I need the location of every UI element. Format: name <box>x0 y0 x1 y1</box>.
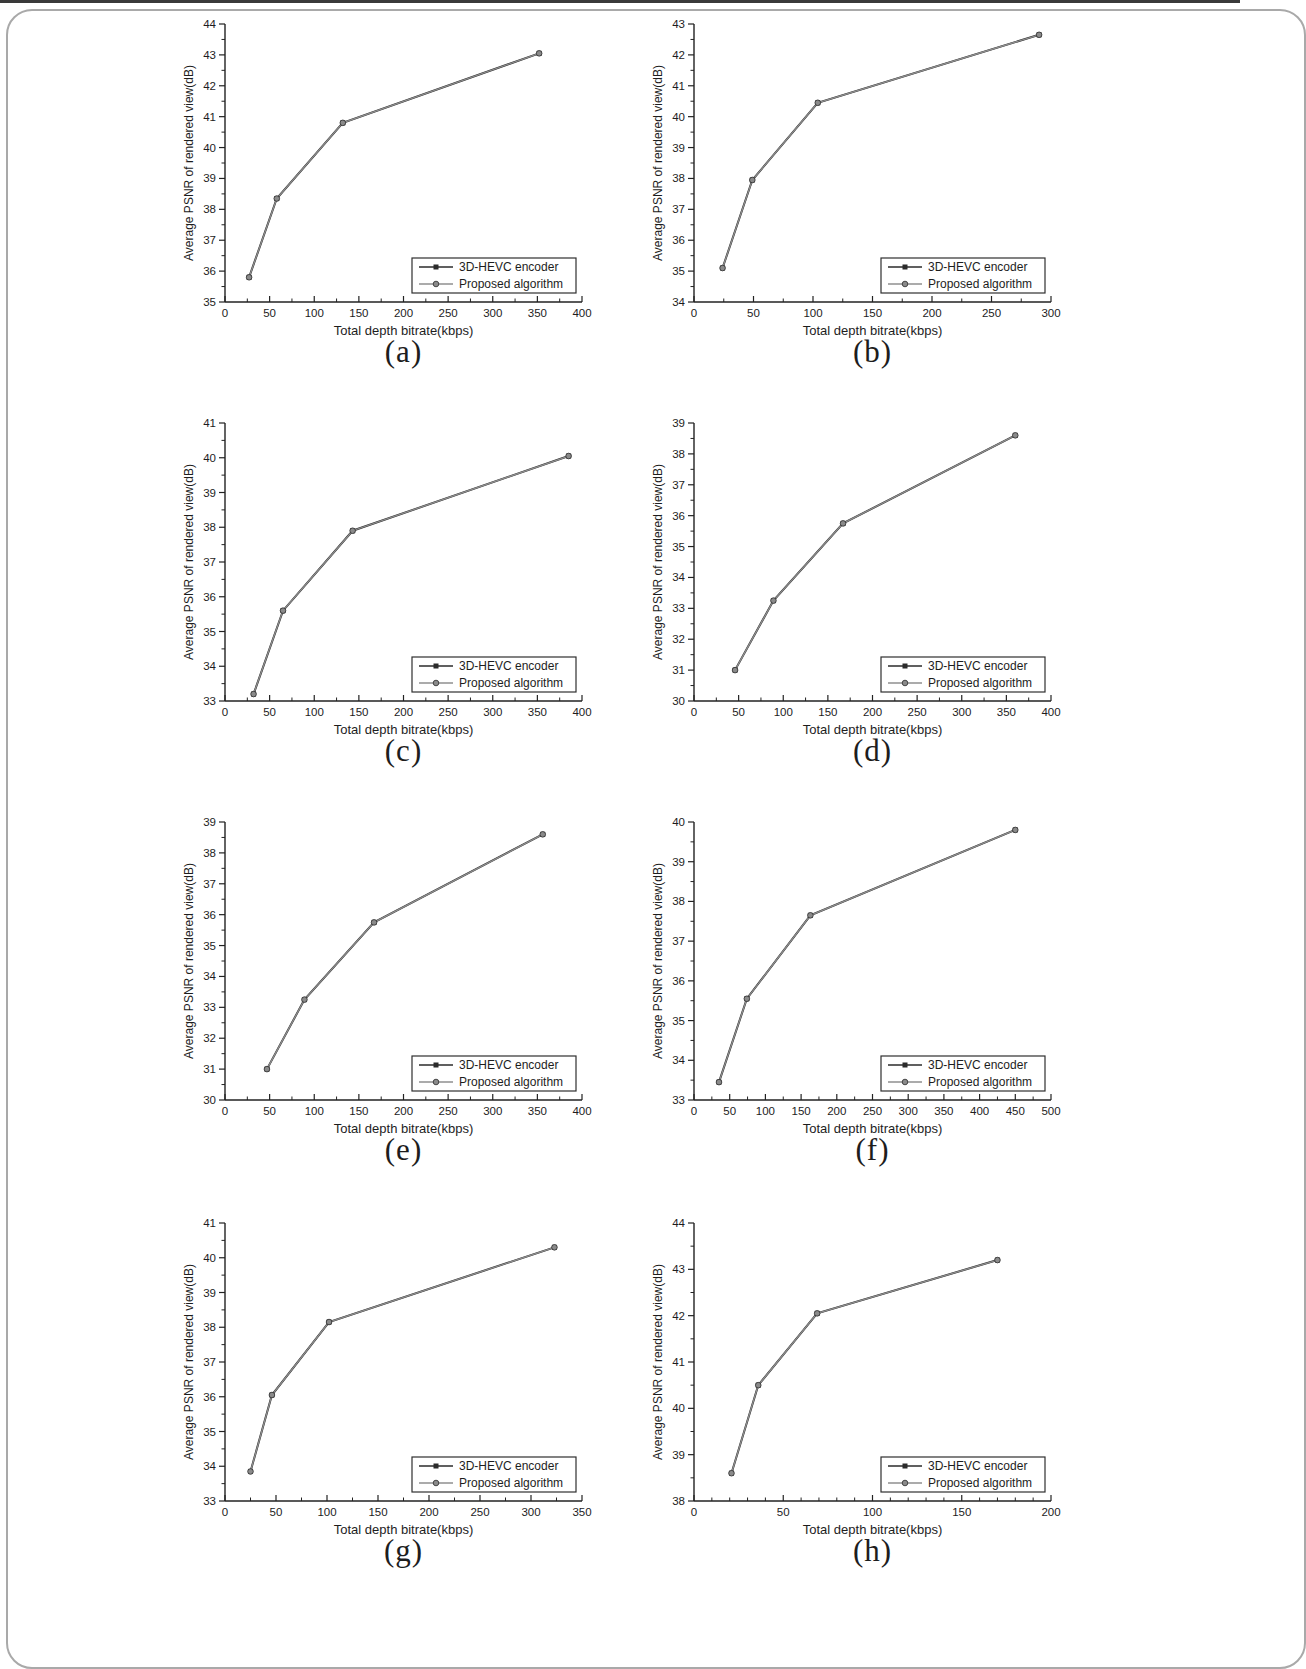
series-line-proposed-algorithm <box>251 1247 555 1471</box>
x-tick-label: 0 <box>222 307 228 319</box>
data-point-proposed <box>536 51 542 57</box>
data-point-proposed <box>552 1245 558 1251</box>
x-tick-label: 350 <box>528 706 547 718</box>
y-tick-label: 40 <box>203 452 216 464</box>
y-tick-label: 39 <box>203 172 216 184</box>
x-tick-label: 0 <box>222 1506 228 1518</box>
subplot-d: 0501001502002503003504003031323334353637… <box>649 399 1089 791</box>
y-tick-label: 37 <box>672 479 685 491</box>
x-tick-label: 250 <box>982 307 1001 319</box>
x-tick-label: 200 <box>827 1105 846 1117</box>
y-tick-label: 37 <box>203 1356 216 1368</box>
subplot-caption-e: (e) <box>225 1132 582 1182</box>
y-tick-label: 43 <box>203 49 216 61</box>
x-tick-label: 250 <box>908 706 927 718</box>
legend-marker-square <box>434 664 439 669</box>
x-tick-label: 350 <box>528 1105 547 1117</box>
data-point-proposed <box>326 1319 332 1325</box>
data-point-proposed <box>251 691 257 697</box>
subplot-caption-d: (d) <box>694 733 1051 783</box>
legend-label: Proposed algorithm <box>459 1476 563 1490</box>
legend-marker-circle <box>433 1480 439 1486</box>
y-tick-label: 44 <box>203 18 216 30</box>
legend-marker-square <box>903 1063 908 1068</box>
y-tick-label: 34 <box>203 970 216 982</box>
series-line-proposed-algorithm <box>249 53 539 277</box>
x-tick-label: 150 <box>368 1506 387 1518</box>
data-point-proposed <box>350 528 356 534</box>
subplot-a: 0501001502002503003504003536373839404142… <box>180 0 620 392</box>
x-tick-label: 500 <box>1041 1105 1060 1117</box>
subplot-b: 05010015020025030034353637383940414243To… <box>649 0 1089 392</box>
legend-marker-square <box>903 664 908 669</box>
legend-marker-circle <box>902 1079 908 1085</box>
y-tick-label: 33 <box>672 1094 685 1106</box>
x-tick-label: 300 <box>483 307 502 319</box>
y-tick-label: 33 <box>203 1001 216 1013</box>
x-tick-label: 50 <box>777 1506 790 1518</box>
y-tick-label: 38 <box>203 847 216 859</box>
subplot-c: 0501001502002503003504003334353637383940… <box>180 399 620 791</box>
y-tick-label: 37 <box>203 556 216 568</box>
series-line-proposed-algorithm <box>723 35 1040 268</box>
x-tick-label: 0 <box>691 1506 697 1518</box>
x-tick-label: 350 <box>528 307 547 319</box>
y-tick-label: 36 <box>672 510 685 522</box>
subplot-h: 05010015020038394041424344Total depth bi… <box>649 1199 1089 1591</box>
x-tick-label: 350 <box>934 1105 953 1117</box>
y-tick-label: 41 <box>672 80 685 92</box>
y-tick-label: 41 <box>203 417 216 429</box>
legend-label: 3D-HEVC encoder <box>928 1459 1027 1473</box>
subplot-f: 0501001502002503003504004505003334353637… <box>649 798 1089 1190</box>
y-tick-label: 32 <box>203 1032 216 1044</box>
y-tick-label: 35 <box>203 1426 216 1438</box>
legend-marker-square <box>434 1063 439 1068</box>
x-tick-label: 50 <box>263 706 276 718</box>
legend-marker-square <box>903 1464 908 1469</box>
series-line-3d-hevc-encoder <box>735 435 1015 670</box>
legend-label: Proposed algorithm <box>459 676 563 690</box>
y-tick-label: 38 <box>203 521 216 533</box>
x-tick-label: 100 <box>305 307 324 319</box>
y-tick-label: 33 <box>203 695 216 707</box>
subplot-caption-g: (g) <box>225 1533 582 1583</box>
subplot-caption-c: (c) <box>225 733 582 783</box>
x-tick-label: 200 <box>1041 1506 1060 1518</box>
legend-marker-circle <box>902 1480 908 1486</box>
legend-label: Proposed algorithm <box>459 1075 563 1089</box>
legend-marker-square <box>434 1464 439 1469</box>
data-point-proposed <box>269 1392 275 1398</box>
y-tick-label: 39 <box>203 816 216 828</box>
x-tick-label: 50 <box>263 307 276 319</box>
y-tick-label: 39 <box>203 1287 216 1299</box>
y-tick-label: 31 <box>203 1063 216 1075</box>
x-tick-label: 100 <box>863 1506 882 1518</box>
series-line-proposed-algorithm <box>267 834 543 1069</box>
legend-marker-square <box>434 265 439 270</box>
data-point-proposed <box>246 274 252 280</box>
y-tick-label: 39 <box>672 142 685 154</box>
series-line-3d-hevc-encoder <box>723 35 1040 268</box>
y-tick-label: 36 <box>203 1391 216 1403</box>
y-tick-label: 34 <box>203 660 216 672</box>
y-tick-label: 35 <box>672 1015 685 1027</box>
x-tick-label: 400 <box>572 307 591 319</box>
legend-label: Proposed algorithm <box>459 277 563 291</box>
subplot-e: 0501001502002503003504003031323334353637… <box>180 798 620 1190</box>
data-point-proposed <box>280 608 286 614</box>
y-tick-label: 40 <box>672 816 685 828</box>
data-point-proposed <box>1013 433 1019 439</box>
x-tick-label: 50 <box>263 1105 276 1117</box>
y-tick-label: 37 <box>203 878 216 890</box>
x-tick-label: 100 <box>774 706 793 718</box>
x-tick-label: 100 <box>756 1105 775 1117</box>
data-point-proposed <box>264 1066 270 1072</box>
series-line-proposed-algorithm <box>731 1260 997 1473</box>
data-point-proposed <box>755 1382 761 1388</box>
y-tick-label: 36 <box>203 591 216 603</box>
y-tick-label: 33 <box>203 1495 216 1507</box>
y-tick-label: 36 <box>203 265 216 277</box>
x-tick-label: 250 <box>470 1506 489 1518</box>
x-tick-label: 250 <box>439 307 458 319</box>
subplot-caption-b: (b) <box>694 334 1051 384</box>
